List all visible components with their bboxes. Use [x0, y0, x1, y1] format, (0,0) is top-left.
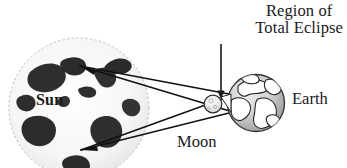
label-earth: Earth — [292, 90, 328, 107]
earth-body — [228, 74, 285, 132]
label-moon: Moon — [177, 133, 216, 150]
moon-body — [204, 95, 222, 113]
region-of-total-eclipse-arrow — [217, 44, 224, 99]
label-region-line-1: Region of — [255, 2, 343, 19]
solar-eclipse-diagram: Region of Total Eclipse Sun Moon Earth — [0, 0, 347, 168]
label-region-of-total-eclipse: Region of Total Eclipse — [255, 2, 343, 37]
label-region-line-2: Total Eclipse — [255, 19, 343, 36]
label-sun: Sun — [36, 92, 63, 109]
moon-disc — [204, 95, 222, 113]
sun-body — [9, 38, 149, 168]
